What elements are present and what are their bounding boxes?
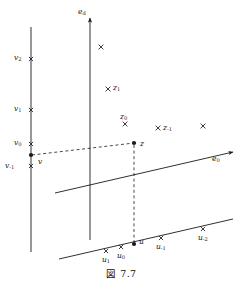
e_d-axis-label: ed bbox=[78, 8, 86, 16]
label-z0-subscript: 0 bbox=[124, 115, 127, 121]
label-u-base: u bbox=[139, 237, 144, 246]
x-mark-z-minus-1 bbox=[156, 126, 161, 131]
e_0-axis bbox=[55, 152, 233, 193]
label-z1: z1 bbox=[113, 84, 120, 92]
label-z-base: z bbox=[140, 139, 144, 148]
v-to-z-dashed bbox=[32, 143, 134, 155]
e_0-axis-label-subscript: 0 bbox=[216, 157, 219, 163]
label-z: z bbox=[140, 140, 144, 148]
label-u-minus-2-subscript: -2 bbox=[203, 236, 208, 242]
label-v1-subscript: 1 bbox=[18, 107, 21, 113]
e_0-axis-label: e0 bbox=[212, 155, 220, 163]
tick-u1 bbox=[104, 249, 108, 253]
label-v-minus-1: v-1 bbox=[5, 162, 14, 170]
tick-u-minus-2 bbox=[201, 227, 205, 231]
label-z-minus-1: z-1 bbox=[163, 124, 172, 132]
label-u0-subscript: 0 bbox=[122, 254, 125, 260]
label-u-minus-1-subscript: -1 bbox=[161, 245, 166, 251]
label-v-minus-1-subscript: -1 bbox=[9, 164, 14, 170]
label-u-minus-2: u-2 bbox=[198, 234, 208, 242]
label-u-minus-1: u-1 bbox=[156, 243, 166, 251]
x-mark-top bbox=[99, 45, 104, 50]
filled-points-group bbox=[29, 141, 136, 246]
point-v bbox=[29, 153, 33, 157]
label-z0: z0 bbox=[120, 113, 127, 121]
label-v: v bbox=[38, 158, 42, 166]
label-v0: v0 bbox=[14, 139, 22, 147]
dashed-lines-group bbox=[32, 143, 134, 243]
x-mark-z0 bbox=[123, 122, 128, 127]
figure-canvas bbox=[0, 0, 243, 287]
figure-container: v2v1v0v-1vz1z0zz-1u1u0uu-1u-2ede0 図 7.7 bbox=[0, 0, 243, 287]
label-u1: u1 bbox=[102, 256, 110, 264]
label-u: u bbox=[139, 238, 144, 246]
axes-group bbox=[31, 18, 233, 259]
figure-caption: 図 7.7 bbox=[0, 266, 243, 280]
label-v-base: v bbox=[38, 157, 42, 166]
label-v2: v2 bbox=[14, 54, 22, 62]
label-v0-subscript: 0 bbox=[18, 141, 21, 147]
tick-u-minus-1 bbox=[159, 236, 163, 240]
label-z1-subscript: 1 bbox=[117, 86, 120, 92]
label-v1: v1 bbox=[14, 105, 22, 113]
tick-u0 bbox=[119, 245, 123, 249]
e_d-axis-label-subscript: d bbox=[82, 10, 85, 16]
label-u1-subscript: 1 bbox=[107, 258, 110, 264]
label-u0: u0 bbox=[117, 252, 125, 260]
point-z bbox=[132, 141, 136, 145]
label-v2-subscript: 2 bbox=[18, 56, 21, 62]
x-mark-right bbox=[201, 124, 206, 129]
label-z-minus-1-subscript: -1 bbox=[167, 126, 172, 132]
point-u bbox=[132, 242, 136, 246]
x-mark-z1 bbox=[106, 87, 111, 92]
